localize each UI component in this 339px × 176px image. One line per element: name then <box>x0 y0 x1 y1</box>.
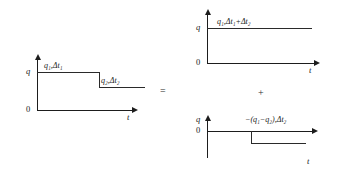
y-axis-label: q <box>196 23 200 32</box>
x-axis-line <box>207 131 313 132</box>
y-axis-line <box>37 59 38 111</box>
annotation-level: −(q₁−q₂),Δt₂ <box>245 115 286 124</box>
baseline-label: 0 <box>196 126 200 135</box>
x-axis-label: t <box>309 66 311 75</box>
x-axis-arrow <box>312 128 318 134</box>
chart-negative-term: q 0 t −(q₁−q₂),Δt₂ <box>185 110 339 176</box>
annotation-level: q₁,Δt₁+Δt₂ <box>217 17 251 26</box>
y-axis-label: q <box>196 115 200 124</box>
x-axis-label: t <box>127 113 129 122</box>
y-axis-line <box>207 120 208 158</box>
x-axis-arrow <box>314 60 320 66</box>
plus-operator: + <box>258 87 264 98</box>
x-axis-label: t <box>307 157 309 166</box>
superposition-figure: q 0 t q₁,Δt₁ q₂,Δt₂ = q 0 t q₁,Δt₁+Δt₂ +… <box>0 0 339 176</box>
step-level-2 <box>99 87 145 88</box>
annotation-step2: q₂,Δt₂ <box>101 76 119 85</box>
y-axis-line <box>207 14 208 64</box>
y-axis-arrow <box>205 9 211 15</box>
baseline-label: 0 <box>196 58 200 67</box>
y-axis-label: q <box>26 67 30 76</box>
step-level-1 <box>37 72 99 73</box>
negative-step-drop <box>251 131 252 143</box>
step-drop <box>99 72 100 87</box>
chart-composite: q 0 t q₁,Δt₁ q₂,Δt₂ <box>0 0 160 176</box>
annotation-step1: q₁,Δt₁ <box>44 61 62 70</box>
negative-step-level <box>251 143 306 144</box>
x-axis-line <box>207 63 315 64</box>
baseline-label: 0 <box>26 105 30 114</box>
equals-operator: = <box>160 85 166 96</box>
y-axis-arrow <box>205 115 211 121</box>
constant-level <box>207 28 312 29</box>
x-axis-arrow <box>132 107 138 113</box>
x-axis-line <box>37 110 133 111</box>
y-axis-arrow <box>35 54 41 60</box>
chart-constant-term: q 0 t q₁,Δt₁+Δt₂ <box>185 0 339 80</box>
